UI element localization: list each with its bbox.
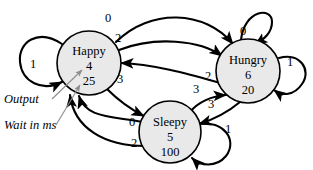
edge-label-happy-sleepy-3: 3 bbox=[117, 72, 123, 86]
edge-happy-self bbox=[20, 37, 62, 86]
edge-label-happy-self: 1 bbox=[30, 57, 36, 71]
fsm-canvas: Happy 4 25 Hungry 6 20 Sleepy 5 100 1 0 … bbox=[0, 0, 313, 170]
state-diagram: Happy 4 25 Hungry 6 20 Sleepy 5 100 1 0 … bbox=[0, 0, 313, 170]
state-output-sleepy: 5 bbox=[167, 130, 173, 144]
state-node-sleepy[interactable]: Sleepy 5 100 bbox=[139, 101, 201, 163]
edge-label-hungry-sleepy-3: 3 bbox=[208, 97, 214, 111]
edge-label-sleepy-happy-2: 2 bbox=[131, 136, 137, 150]
edge-label-happy-hungry-2: 2 bbox=[115, 31, 121, 45]
state-wait-hungry: 20 bbox=[242, 83, 255, 97]
state-output-hungry: 6 bbox=[245, 68, 251, 82]
edge-happy-sleepy-3 bbox=[107, 89, 144, 116]
state-node-hungry[interactable]: Hungry 6 20 bbox=[216, 39, 280, 103]
edge-label-hungry-self-0: 0 bbox=[240, 24, 246, 38]
output-annotation-label: Output bbox=[4, 92, 39, 106]
edge-label-hungry-happy-2: 2 bbox=[205, 69, 211, 83]
edge-label-hungry-self-1: 1 bbox=[287, 55, 293, 69]
wait-annotation-label: Wait in ms bbox=[4, 118, 56, 132]
edge-label-sleepy-self-1: 1 bbox=[225, 122, 231, 136]
edge-happy-hungry-2 bbox=[119, 41, 222, 56]
state-wait-sleepy: 100 bbox=[161, 145, 180, 159]
edge-label-happy-hungry-0: 0 bbox=[105, 11, 111, 25]
edge-label-sleepy-hungry-3: 3 bbox=[193, 82, 199, 96]
state-name-happy: Happy bbox=[72, 44, 106, 58]
edge-label-sleepy-happy-0: 0 bbox=[129, 115, 135, 129]
state-output-happy: 4 bbox=[86, 59, 93, 73]
edge-happy-hungry-0 bbox=[116, 17, 233, 44]
edge-hungry-sleepy-3 bbox=[199, 102, 240, 124]
state-name-sleepy: Sleepy bbox=[153, 115, 188, 129]
state-wait-happy: 25 bbox=[83, 74, 96, 88]
state-name-hungry: Hungry bbox=[229, 53, 268, 67]
